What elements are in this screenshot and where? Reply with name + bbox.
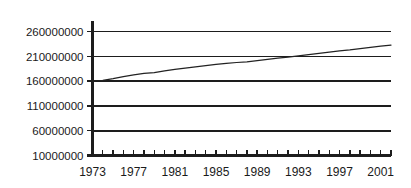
y-axis-tick-label: 110000000 — [27, 100, 84, 112]
gridlines — [93, 32, 392, 131]
x-axis-tick-label: 1973 — [79, 165, 106, 179]
axes — [87, 21, 392, 156]
y-axis-tick-label: 60000000 — [32, 125, 83, 137]
x-axis-tick-label: 1985 — [203, 165, 230, 179]
x-axis-tick-label: 1997 — [326, 165, 353, 179]
x-axis-tick-label: 1989 — [244, 165, 271, 179]
y-axis-tick-label: 210000000 — [26, 51, 84, 63]
chart-canvas: 1000000060000000110000000160000000210000… — [0, 0, 411, 188]
line-chart: 1000000060000000110000000160000000210000… — [0, 0, 411, 188]
x-axis-tick-label: 1977 — [120, 165, 147, 179]
x-axis-tick-label: 2001 — [367, 165, 394, 179]
x-axis-tick-label: 1993 — [285, 165, 312, 179]
series-line — [93, 45, 392, 81]
data-series — [93, 45, 392, 81]
x-axis-tick-label: 1981 — [161, 165, 188, 179]
y-axis-tick-labels: 1000000060000000110000000160000000210000… — [26, 26, 84, 162]
x-axis-tick-labels: 19731977198119851989199319972001 — [79, 165, 394, 179]
y-axis-tick-label: 260000000 — [26, 26, 84, 38]
y-axis-tick-label: 10000000 — [32, 150, 83, 162]
y-axis-tick-label: 160000000 — [26, 75, 84, 87]
